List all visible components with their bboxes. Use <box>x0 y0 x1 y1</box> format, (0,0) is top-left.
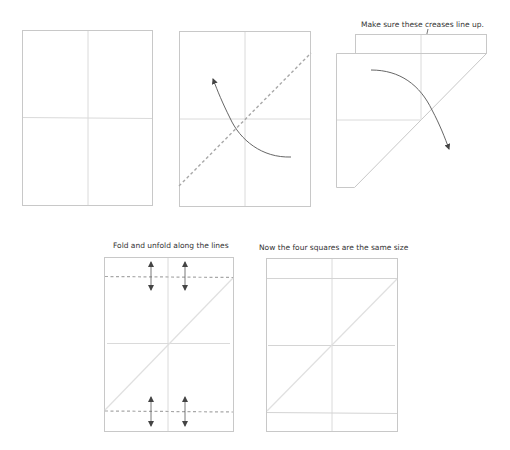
step-1-panel <box>23 31 153 206</box>
step-4-caption: Fold and unfold along the lines <box>113 241 229 250</box>
step-4-panel: Fold and unfold along the lines <box>105 241 234 432</box>
step-5-caption: Now the four squares are the same size <box>259 243 409 252</box>
step-3-caption: Make sure these creases line up. <box>361 20 484 29</box>
step-5-panel: Now the four squares are the same size <box>259 243 409 432</box>
step-2-panel <box>179 32 311 207</box>
folding-diagram: Make sure these creases line up. Fold an… <box>0 0 510 450</box>
step-3-panel: Make sure these creases line up. <box>337 20 487 188</box>
